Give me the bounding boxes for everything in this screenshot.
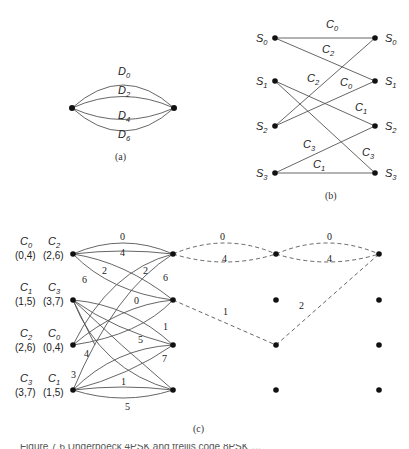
state-right-s3: S3 [385,167,397,182]
state-right-s2: S2 [385,120,397,135]
state-right-s1: S1 [385,75,397,90]
caption-a: (a) [115,151,126,163]
survivor-paths: 0 4 0 4 1 2 [173,231,379,345]
state-left-s2: S2 [256,120,268,135]
node-right [171,105,177,111]
edge-label-c0-mid: C0 [340,76,353,91]
panel-a: D0 D2 D4 D6 (a) [69,65,177,163]
svg-text:(2,6): (2,6) [15,342,36,353]
trellis-nodes [70,251,382,393]
label-r0-s1b: 6 [82,274,87,285]
survivor-label-4b: 4 [327,253,332,264]
caption-c: (c) [193,423,204,435]
svg-text:(2,6): (2,6) [43,250,64,261]
dashed-diag-2 [276,254,379,345]
row-label-0: C0 (0,4) C2 (2,6) [15,235,64,261]
survivor-label-1: 1 [223,306,228,317]
label-r0-mid: 4 [120,247,125,258]
panel-c: C0 (0,4) C2 (2,6) C1 (1,5) C3 (3,7) C2 (… [15,231,382,435]
node-left [69,105,75,111]
edge-r1-r2-b [73,300,173,345]
label-r2-s1: 0 [134,295,139,306]
edge-label-c3-a: C3 [303,138,316,153]
survivor-label-2: 2 [299,300,304,311]
svg-text:C2: C2 [20,327,33,342]
label-r3: 3 [71,369,76,380]
label-r0-s1a: 2 [102,265,107,276]
edge-r3-r3-top [73,387,173,390]
state-left-s1: S1 [256,75,268,90]
svg-text:C1: C1 [48,372,60,387]
svg-text:(0,4): (0,4) [15,250,36,261]
state-left-s3: S3 [256,167,268,182]
label-r1-s2: 1 [163,321,168,332]
state-right-s0: S0 [385,32,397,47]
svg-text:C3: C3 [48,281,61,296]
node-left-s3 [272,170,278,176]
svg-text:C0: C0 [48,327,61,342]
row-label-1: C1 (1,5) C3 (3,7) [15,281,64,307]
edge-r2-r1-a [73,300,173,345]
svg-text:(1,5): (1,5) [15,296,36,307]
survivor-label-0a: 0 [220,231,225,242]
label-r2-s0: 2 [143,265,148,276]
trellis-figure: D0 D2 D4 D6 (a) S0 S1 S2 S3 S0 S1 S2 S [0,0,409,449]
panel-b: S0 S1 S2 S3 S0 S1 S2 S3 C0 C2 C2 C0 C1 C… [256,18,397,202]
svg-text:(1,5): (1,5) [43,387,64,398]
label-d4: D4 [118,109,130,124]
figure-caption-fragment: Figure 7.6 Ungerboeck 4PSK and trellis c… [20,444,400,449]
edge-d2 [72,97,174,109]
edge-r1-r2-a [73,300,173,345]
label-r1-s3: 5 [138,334,143,345]
label-r3-s2: 7 [162,353,167,364]
state-left-s0: S0 [256,32,268,47]
label-r3-top: 1 [121,376,126,387]
node-right-s1 [372,78,378,84]
trellis-section: 0 4 2 6 2 6 0 1 5 4 7 3 1 5 [71,231,173,412]
edge-label-c0-top: C0 [326,18,339,33]
node-right-s0 [372,35,378,41]
survivor-label-0b: 0 [327,231,332,242]
edge-r0-r1-b [73,254,173,300]
edge-label-c2-a: C2 [322,43,335,58]
edge-s1-s3 [275,81,375,173]
svg-text:(3,7): (3,7) [15,387,36,398]
edge-label-c2-b: C2 [307,72,320,87]
svg-text:C3: C3 [20,372,33,387]
svg-text:(3,7): (3,7) [43,296,64,307]
svg-text:C2: C2 [48,235,61,250]
edge-r2-r1-b [73,300,173,345]
label-d0: D0 [118,65,131,80]
edge-r3-r0 [73,254,173,390]
row-label-3: C3 (3,7) C1 (1,5) [15,372,64,398]
node-left-s1 [272,78,278,84]
node-right-s3 [372,170,378,176]
node-left-s0 [272,35,278,41]
node-right-s2 [372,123,378,129]
svg-text:C0: C0 [20,235,33,250]
caption-b: (b) [325,190,337,202]
label-r3-bot: 5 [125,401,130,412]
row-label-2: C2 (2,6) C0 (0,4) [15,327,64,353]
edge-label-c1-a: C1 [355,101,367,116]
survivor-label-4a: 4 [222,253,227,264]
node-left-s2 [272,123,278,129]
edge-r0-r1-a [73,254,173,300]
edge-label-c3-b: C3 [362,146,375,161]
label-r3-s0: 6 [163,272,168,283]
label-r0-top: 0 [120,231,125,242]
svg-text:(0,4): (0,4) [43,342,64,353]
label-r2: 4 [84,348,89,359]
edge-r3-r3-bot [73,390,173,398]
svg-text:C1: C1 [20,281,32,296]
edge-label-c1-b: C1 [313,158,325,173]
